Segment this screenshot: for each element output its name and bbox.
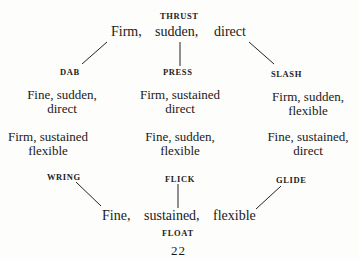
- word-flexible-bottom: flexible: [213, 208, 256, 224]
- flick-line1: Fine, sudden,: [133, 130, 227, 144]
- page-number: 22: [171, 243, 186, 259]
- slash-line2: flexible: [258, 104, 358, 118]
- block-press-qualities: Firm, sustained direct: [127, 88, 233, 116]
- block-dab-qualities: Fine, sudden, direct: [12, 88, 112, 116]
- label-wring: WRING: [47, 172, 81, 182]
- wring-line1: Firm, sustained: [2, 130, 94, 144]
- line-direct-to-slash: [249, 42, 274, 64]
- slash-line1: Firm, sudden,: [258, 90, 358, 104]
- label-float: FLOAT: [162, 228, 194, 238]
- word-sudden-top: sudden,: [155, 24, 198, 40]
- line-firm-to-dab: [82, 42, 107, 64]
- label-slash: SLASH: [271, 69, 302, 79]
- line-wring-to-fine: [76, 182, 101, 206]
- label-glide: GLIDE: [276, 175, 306, 185]
- press-line2: direct: [127, 102, 233, 116]
- label-flick: FLICK: [165, 174, 195, 184]
- line-glide-to-flexible: [256, 186, 281, 209]
- wring-line2: flexible: [2, 144, 94, 158]
- block-glide-qualities: Fine, sustained, direct: [258, 130, 358, 158]
- glide-line2: direct: [258, 144, 358, 158]
- label-press: PRESS: [163, 67, 192, 77]
- press-line1: Firm, sustained: [127, 88, 233, 102]
- effort-actions-diagram: THRUST Firm, sudden, direct DAB PRESS SL…: [0, 0, 359, 260]
- glide-line1: Fine, sustained,: [258, 130, 358, 144]
- block-wring-qualities: Firm, sustained flexible: [2, 130, 94, 158]
- label-dab: DAB: [60, 67, 80, 77]
- word-sustained-bottom: sustained,: [144, 208, 200, 224]
- word-direct-top: direct: [214, 24, 246, 40]
- block-slash-qualities: Firm, sudden, flexible: [258, 90, 358, 118]
- dab-line2: direct: [12, 102, 112, 116]
- word-firm-top: Firm,: [111, 24, 142, 40]
- label-thrust: THRUST: [160, 11, 199, 21]
- dab-line1: Fine, sudden,: [12, 88, 112, 102]
- block-flick-qualities: Fine, sudden, flexible: [133, 130, 227, 158]
- word-fine-bottom: Fine,: [102, 208, 130, 224]
- flick-line2: flexible: [133, 144, 227, 158]
